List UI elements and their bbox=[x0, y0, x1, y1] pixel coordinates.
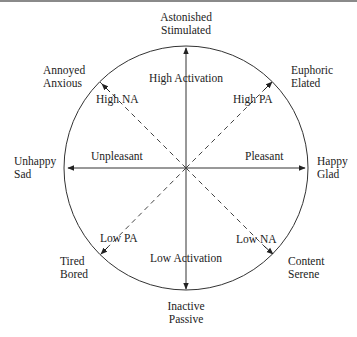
arrow-se-icon bbox=[264, 246, 273, 254]
arrow-ne-icon bbox=[264, 82, 272, 90]
label-high-na: High NA bbox=[96, 93, 139, 106]
pole-nw-line1: Annoyed bbox=[43, 64, 85, 77]
pole-bottom-line1: Inactive bbox=[167, 300, 204, 313]
pole-top: Astonished Stimulated bbox=[160, 11, 212, 37]
pole-ne-line1: Euphoric bbox=[291, 64, 333, 77]
label-low-pa: Low PA bbox=[100, 232, 138, 245]
pole-sw: Tired Bored bbox=[60, 255, 88, 281]
pole-bottom-line2: Passive bbox=[167, 313, 204, 326]
pole-ne-line2: Elated bbox=[291, 77, 333, 90]
label-unpleasant: Unpleasant bbox=[91, 150, 143, 163]
pole-sw-line1: Tired bbox=[60, 255, 88, 268]
pole-bottom: Inactive Passive bbox=[167, 300, 204, 326]
label-low-na: Low NA bbox=[236, 233, 277, 246]
pole-nw: Annoyed Anxious bbox=[43, 64, 85, 90]
pole-nw-line2: Anxious bbox=[43, 77, 85, 90]
pole-se: Content Serene bbox=[288, 255, 324, 281]
pole-top-line1: Astonished bbox=[160, 11, 212, 24]
pole-right: Happy Glad bbox=[317, 155, 348, 181]
label-low-activation: Low Activation bbox=[150, 252, 222, 265]
arrow-nw-icon bbox=[102, 84, 110, 92]
pole-se-line2: Serene bbox=[288, 268, 324, 281]
pole-right-line1: Happy bbox=[317, 155, 348, 168]
pole-right-line2: Glad bbox=[317, 168, 348, 181]
pole-sw-line2: Bored bbox=[60, 268, 88, 281]
pole-left-line1: Unhappy bbox=[14, 155, 56, 168]
pole-ne: Euphoric Elated bbox=[291, 64, 333, 90]
label-pleasant: Pleasant bbox=[245, 150, 283, 163]
pole-se-line1: Content bbox=[288, 255, 324, 268]
pole-left-line2: Sad bbox=[14, 168, 56, 181]
arrow-sw-icon bbox=[101, 247, 108, 254]
label-high-pa: High PA bbox=[233, 93, 273, 106]
label-high-activation: High Activation bbox=[149, 72, 223, 85]
pole-left: Unhappy Sad bbox=[14, 155, 56, 181]
pole-top-line2: Stimulated bbox=[160, 24, 212, 37]
